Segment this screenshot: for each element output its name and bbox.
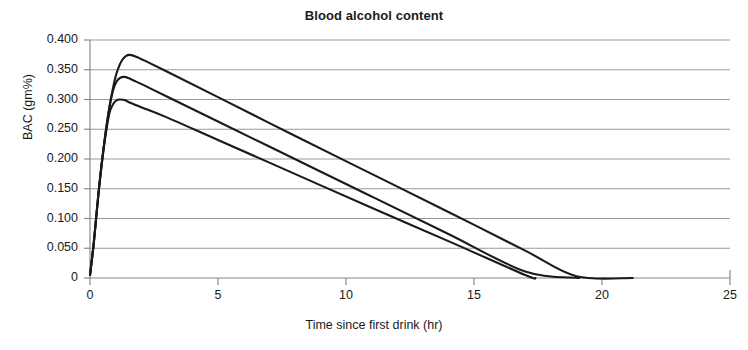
plot-area <box>0 0 748 350</box>
series-line-curve-upper <box>90 55 633 279</box>
chart-container: Blood alcohol content BAC (gm%) Time sin… <box>0 0 748 350</box>
